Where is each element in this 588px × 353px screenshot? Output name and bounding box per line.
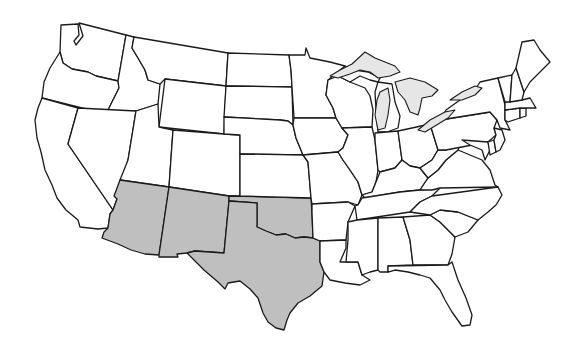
state-new-jersey [494, 128, 505, 152]
us-map [0, 0, 588, 353]
state-north-dakota [226, 53, 292, 87]
state-wyoming [159, 79, 226, 134]
state-new-mexico [159, 187, 229, 257]
state-florida [388, 262, 472, 326]
state-rhode-island [520, 108, 526, 118]
state-maine [516, 40, 550, 92]
state-colorado [169, 130, 240, 196]
state-kansas [240, 154, 311, 198]
lake-huron [395, 78, 438, 115]
